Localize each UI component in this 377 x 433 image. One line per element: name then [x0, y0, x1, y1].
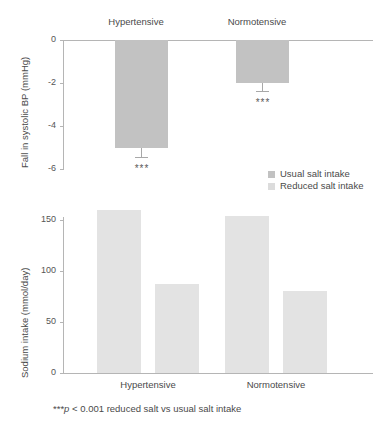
zero-baseline-bp	[63, 40, 373, 41]
errorbar-cap-bp-normotensive	[256, 91, 269, 92]
errorbar-cap-bp-hypertensive	[135, 157, 148, 158]
significance-marker-bp-normotensive: ***	[238, 98, 288, 108]
footnote-stars: ***	[53, 403, 64, 414]
legend-swatch-icon-usual	[268, 171, 275, 178]
legend-label-usual: Usual salt intake	[280, 168, 350, 180]
y-tick-label-sodium-100: 100	[26, 266, 56, 275]
legend-label-reduced: Reduced salt intake	[280, 180, 363, 192]
category-label-sodium-hypertensive: Hypertensive	[103, 380, 193, 390]
footnote: ***p < 0.001 reduced salt vs usual salt …	[53, 403, 241, 414]
y-tick-sodium-50	[60, 322, 64, 323]
bar-bp-hypertensive	[115, 40, 168, 148]
legend: Usual salt intake Reduced salt intake	[268, 168, 363, 192]
y-tick-label-bp-m2: -2	[28, 78, 56, 87]
footnote-text: < 0.001 reduced salt vs usual salt intak…	[69, 403, 241, 414]
legend-item-usual-salt-intake: Usual salt intake	[268, 168, 363, 180]
chart-sodium-intake: Sodium intake (mmol/day) 150 100 50 0 Hy…	[0, 200, 377, 433]
y-tick-sodium-150	[60, 220, 64, 221]
legend-item-reduced-salt-intake: Reduced salt intake	[268, 180, 363, 192]
y-tick-bp-m4	[60, 126, 64, 127]
errorbar-stem-bp-hypertensive	[141, 148, 142, 157]
y-tick-label-sodium-150: 150	[26, 215, 56, 224]
y-axis-line-sodium	[63, 217, 64, 374]
category-label-bp-hypertensive: Hypertensive	[91, 17, 181, 27]
bar-sodium-normotensive-usual	[225, 216, 269, 373]
category-label-sodium-normotensive: Normotensive	[231, 380, 321, 390]
legend-swatch-icon-reduced	[268, 183, 275, 190]
y-tick-bp-m2	[60, 83, 64, 84]
chart-fall-in-systolic-bp: Fall in systolic BP (mmHg) 0 -2 -4 -6 Hy…	[0, 0, 377, 200]
y-tick-sodium-100	[60, 271, 64, 272]
x-axis-line-sodium	[63, 373, 373, 374]
y-axis-title-bp: Fall in systolic BP (mmHg)	[20, 57, 30, 168]
y-axis-line-bp	[63, 40, 64, 170]
category-label-bp-normotensive: Normotensive	[212, 17, 302, 27]
y-tick-label-sodium-50: 50	[26, 317, 56, 326]
bar-sodium-normotensive-reduced	[283, 291, 327, 373]
significance-marker-bp-hypertensive: ***	[117, 164, 167, 174]
bar-sodium-hypertensive-usual	[97, 210, 141, 373]
y-tick-label-bp-0: 0	[28, 35, 56, 44]
y-tick-bp-m6	[60, 169, 64, 170]
figure-root: Fall in systolic BP (mmHg) 0 -2 -4 -6 Hy…	[0, 0, 377, 433]
y-tick-label-sodium-0: 0	[26, 368, 56, 377]
errorbar-stem-bp-normotensive	[262, 83, 263, 91]
y-tick-sodium-0	[60, 373, 64, 374]
bar-sodium-hypertensive-reduced	[155, 284, 199, 373]
bar-bp-normotensive	[236, 40, 289, 83]
y-tick-bp-0	[60, 40, 64, 41]
y-tick-label-bp-m6: -6	[28, 164, 56, 173]
y-tick-label-bp-m4: -4	[28, 121, 56, 130]
